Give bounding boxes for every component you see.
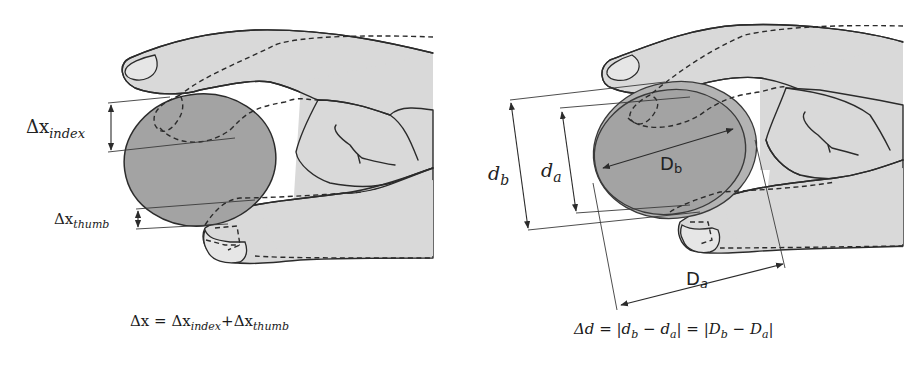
formula-minus1: − — [638, 320, 660, 338]
left-curled-fingers — [296, 100, 433, 187]
formula-term2: Δx — [234, 312, 253, 330]
label-d-b: db — [488, 162, 509, 188]
formula-t1: d — [622, 320, 632, 338]
formula-eq2: | = | — [677, 320, 709, 338]
formula-t3: D — [709, 320, 721, 338]
formula-minus2: − — [728, 320, 750, 338]
label-D-a: Da — [686, 268, 708, 291]
formula-delta-x: Δx = Δxindex+Δxthumb — [130, 312, 289, 333]
formula-t4: D — [750, 320, 762, 338]
formula-lhs: Δd — [574, 320, 594, 338]
formula-close: | — [769, 320, 774, 338]
formula-term1-sub: index — [191, 320, 221, 333]
formula-term1: Δx — [171, 312, 190, 330]
formula-t2: d — [660, 320, 670, 338]
formula-plus: + — [221, 312, 234, 330]
right-thumb-nail — [681, 225, 720, 253]
formula-t3-sub: b — [721, 328, 728, 341]
formula-delta-d: Δd = |db − da| = |Db − Da| — [574, 320, 774, 341]
right-curled-fingers — [766, 88, 903, 179]
label-d-a: da — [541, 159, 562, 185]
formula-eq: = — [149, 312, 171, 330]
label-delta-x-thumb: Δxthumb — [54, 210, 109, 231]
formula-eq1: = | — [594, 320, 621, 338]
formula-term2-sub: thumb — [253, 320, 289, 333]
label-delta-x-index: Δxindex — [26, 116, 86, 141]
formula-lhs: Δx — [130, 312, 149, 330]
